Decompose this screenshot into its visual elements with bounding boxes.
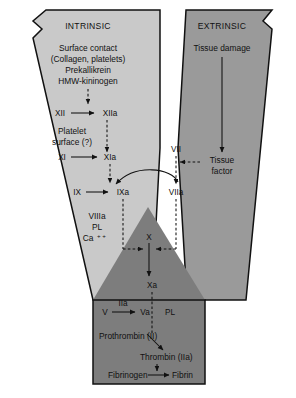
complex-pl: PL xyxy=(92,222,103,232)
fibrinogen-label: Fibrinogen xyxy=(108,370,148,380)
intrinsic-heading: INTRINSIC xyxy=(65,21,111,31)
factor-ixa-label: IXa xyxy=(117,188,130,197)
factor-ix-label: IX xyxy=(73,188,81,197)
platelet-surface-line2: surface (?) xyxy=(52,137,92,147)
thrombin-label: Thrombin (IIa) xyxy=(140,352,193,362)
complex-calcium-charge: + + xyxy=(97,232,106,239)
factor-xi-label: XI xyxy=(58,153,66,162)
tissue-damage-label: Tissue damage xyxy=(194,43,251,53)
complex-calcium: Ca xyxy=(83,233,94,243)
initiator-collagen-platelets: (Collagen, platelets) xyxy=(51,54,126,64)
extrinsic-heading: EXTRINSIC xyxy=(198,21,247,31)
factor-va-label: Va xyxy=(140,308,150,317)
factor-xa-label: Xa xyxy=(147,281,157,290)
initiator-surface-contact: Surface contact xyxy=(59,43,118,53)
factor-xiia-label: XIIa xyxy=(103,109,118,118)
catalyst-iia-label: IIa xyxy=(118,299,128,308)
factor-xii-label: XII xyxy=(55,109,65,118)
complex-viiia: VIIIa xyxy=(88,211,106,221)
tissue-factor-line2: factor xyxy=(212,166,233,176)
phospholipid-label: PL xyxy=(165,308,175,317)
initiator-hmw-kininogen: HMW-kininogen xyxy=(58,76,118,86)
tissue-factor-line1: Tissue xyxy=(210,155,235,165)
coagulation-cascade-diagram: INTRINSIC Surface contact (Collagen, pla… xyxy=(0,0,296,398)
factor-viia-label: VIIa xyxy=(169,188,184,197)
factor-xia-label: XIa xyxy=(104,153,117,162)
fibrin-label: Fibrin xyxy=(172,370,193,380)
platelet-surface-line1: Platelet xyxy=(58,126,87,136)
initiator-prekallikrein: Prekallikrein xyxy=(65,65,111,75)
factor-x-label: X xyxy=(146,233,152,242)
factor-vii-label: VII xyxy=(171,145,181,154)
factor-v-label: V xyxy=(102,308,108,317)
